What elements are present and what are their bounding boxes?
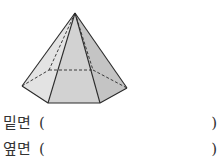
side-label: 옆면 [3,138,31,160]
question-row-side: 옆면 ( ) [3,138,221,160]
close-paren: ) [211,138,217,160]
hexagonal-pyramid-figure [0,0,224,112]
open-paren: ( [39,112,45,134]
question-row-base: 밑면 ( ) [3,112,221,134]
close-paren: ) [211,112,217,134]
open-paren: ( [39,138,45,160]
pyramid-icon [0,0,224,112]
base-label: 밑면 [3,112,31,134]
